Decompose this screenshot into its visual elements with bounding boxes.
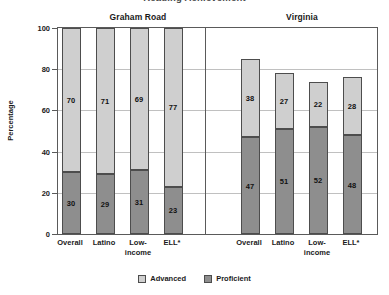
legend-label-proficient: Proficient	[216, 274, 251, 283]
bar-segment-proficient: 48	[343, 135, 362, 234]
bar-segment-advanced: 71	[96, 28, 115, 174]
bar: 3070	[62, 28, 81, 234]
x-tick-label: ELL*	[324, 238, 378, 248]
legend-item-advanced[interactable]: Advanced	[138, 274, 186, 283]
bar-segment-proficient: 29	[96, 174, 115, 234]
bar-value-label-advanced: 77	[165, 104, 182, 112]
bar-value-label-proficient: 23	[165, 207, 182, 215]
bar-value-label-advanced: 69	[131, 96, 148, 104]
bar-segment-proficient: 52	[309, 127, 328, 234]
bar-segment-proficient: 31	[130, 170, 149, 234]
x-tick-label-line: income	[290, 248, 344, 258]
bar: 4738	[241, 59, 260, 234]
bar: 5222	[309, 82, 328, 234]
y-tick-label-80: 80	[16, 65, 50, 74]
chart-legend: AdvancedProficient	[0, 274, 389, 283]
legend-item-proficient[interactable]: Proficient	[204, 274, 251, 283]
bar: 2377	[164, 28, 183, 234]
panel-divider	[205, 28, 206, 234]
x-tick-label: ELL*	[145, 238, 199, 248]
bar-value-label-advanced: 22	[310, 101, 327, 109]
stacked-bar-chart: Reading Achievement Graham Road Virginia…	[0, 0, 389, 295]
x-tick-label-line: ELL*	[145, 238, 199, 248]
bar: 5127	[275, 73, 294, 234]
plot-area: 30702971316923774738512752224828	[57, 27, 378, 235]
chart-title-text: Reading Achievement	[0, 0, 389, 3]
bar-value-label-proficient: 52	[310, 177, 327, 185]
bar-value-label-proficient: 29	[97, 201, 114, 209]
bar-segment-advanced: 27	[275, 73, 294, 129]
panel-header-graham-road: Graham Road	[58, 12, 218, 22]
panel-header-virginia: Virginia	[222, 12, 382, 22]
bar-segment-advanced: 70	[62, 28, 81, 172]
y-tick-label-20: 20	[16, 189, 50, 198]
y-tick-label-40: 40	[16, 148, 50, 157]
bar-segment-advanced: 69	[130, 28, 149, 170]
bar-segment-advanced: 22	[309, 82, 328, 127]
bar: 2971	[96, 28, 115, 234]
chart-title-clipped: Reading Achievement	[0, 0, 389, 5]
y-tick-label-100: 100	[16, 24, 50, 33]
legend-swatch-advanced-icon	[138, 275, 146, 283]
bar-value-label-advanced: 28	[344, 103, 361, 111]
legend-swatch-proficient-icon	[204, 275, 212, 283]
bar-value-label-advanced: 70	[63, 97, 80, 105]
bar: 4828	[343, 77, 362, 234]
bar-value-label-proficient: 31	[131, 199, 148, 207]
bar-value-label-advanced: 27	[276, 98, 293, 106]
y-axis-title: Percentage	[6, 91, 15, 151]
bar-value-label-proficient: 48	[344, 182, 361, 190]
bar-segment-advanced: 77	[164, 28, 183, 187]
bar-segment-proficient: 51	[275, 129, 294, 234]
bar-segment-proficient: 30	[62, 172, 81, 234]
bar: 3169	[130, 28, 149, 234]
y-tick-label-60: 60	[16, 106, 50, 115]
bar-value-label-proficient: 51	[276, 178, 293, 186]
bar-segment-advanced: 28	[343, 77, 362, 135]
bar-segment-proficient: 47	[241, 137, 260, 234]
bar-segment-proficient: 23	[164, 187, 183, 234]
x-tick-label-line: income	[111, 248, 165, 258]
bar-segment-advanced: 38	[241, 59, 260, 137]
x-tick-label-line: ELL*	[324, 238, 378, 248]
bar-value-label-advanced: 38	[242, 95, 259, 103]
bar-value-label-advanced: 71	[97, 98, 114, 106]
bar-value-label-proficient: 30	[63, 200, 80, 208]
bar-value-label-proficient: 47	[242, 183, 259, 191]
legend-label-advanced: Advanced	[150, 274, 186, 283]
